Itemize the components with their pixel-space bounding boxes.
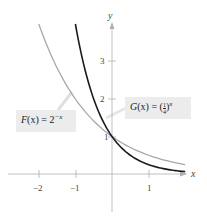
g-arg: (x) [137,101,149,112]
x-axis-label: x [190,168,196,179]
y-axis-label: y [107,10,113,21]
g-exp: x [169,100,172,108]
y-tick-label: 2 [100,94,105,104]
y-tick-label: 3 [100,56,105,66]
x-tick-label: 1 [147,183,152,193]
f-arg: (x) [27,114,39,125]
g-leader-line [106,108,126,118]
x-tick-label: −1 [70,183,80,193]
x-tick-label: −2 [33,183,43,193]
g-eq: = ( [149,101,163,112]
label-g: G(x) = (14)x [125,97,191,119]
label-f: F(x) = 2−x [16,110,76,132]
f-eq: = 2 [39,114,55,125]
f-leader-line [58,92,72,110]
y-axis-arrow-icon [110,22,115,29]
f-exp: −x [54,113,62,121]
